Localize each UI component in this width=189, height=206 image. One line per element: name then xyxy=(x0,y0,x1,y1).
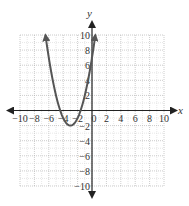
y-tick-label: −4 xyxy=(79,136,90,147)
y-tick-label: 10 xyxy=(80,30,90,41)
x-tick-label: −6 xyxy=(43,113,54,124)
y-axis-label: y xyxy=(86,7,92,19)
y-tick-label: −2 xyxy=(79,121,90,132)
x-tick-label: 6 xyxy=(133,113,138,124)
y-tick-label: 8 xyxy=(85,45,90,56)
y-tick-label: −10 xyxy=(74,181,90,192)
coordinate-plane: −10−8−6−4−20246810−10−8−6−4−2246810 x y xyxy=(0,0,189,206)
x-tick-label: −8 xyxy=(29,113,40,124)
y-tick-label: −6 xyxy=(79,151,90,162)
x-tick-label: −10 xyxy=(12,113,28,124)
x-tick-label: 2 xyxy=(104,113,109,124)
x-tick-label: 4 xyxy=(118,113,123,124)
x-tick-label: 0 xyxy=(92,113,97,124)
x-axis-label: x xyxy=(177,104,183,116)
x-tick-label: 10 xyxy=(159,113,169,124)
y-tick-label: −8 xyxy=(79,166,90,177)
x-tick-label: 8 xyxy=(147,113,152,124)
